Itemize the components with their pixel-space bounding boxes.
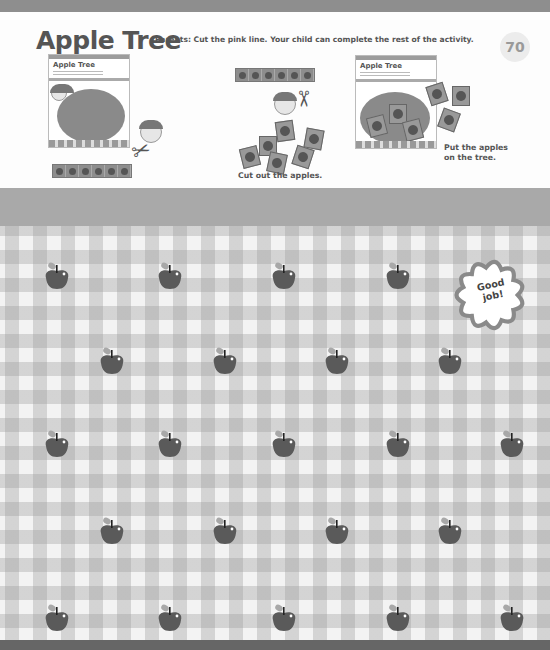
parent-instructions: Parents: Cut the pink line. Your child c… <box>155 35 474 44</box>
apple-cutout-strip <box>235 68 315 82</box>
apple-sticker[interactable] <box>498 603 526 633</box>
apple-icon <box>384 603 412 633</box>
apple-sticker[interactable] <box>270 603 298 633</box>
apple-sticker[interactable] <box>43 603 71 633</box>
apple-sticker[interactable] <box>98 516 126 546</box>
child-face-icon <box>51 85 67 101</box>
step3-caption: Put the apples on the tree. <box>444 143 508 162</box>
step3-caption-line1: Put the apples <box>444 143 508 153</box>
apple-icon <box>43 429 71 459</box>
apple-sticker[interactable] <box>156 603 184 633</box>
tree-icon <box>57 89 125 143</box>
step1-thumb-title: Apple Tree <box>49 59 129 69</box>
apple-sticker[interactable] <box>384 603 412 633</box>
apple-icon <box>323 516 351 546</box>
activity-header: Apple Tree Parents: Cut the pink line. Y… <box>0 12 550 188</box>
top-edge-strip <box>0 0 550 12</box>
apple-icon <box>211 516 239 546</box>
apple-icon <box>498 429 526 459</box>
apple-sticker[interactable] <box>270 261 298 291</box>
apple-sticker[interactable] <box>98 346 126 376</box>
apple-icon <box>384 261 412 291</box>
apple-icon <box>156 261 184 291</box>
apple-sticker[interactable] <box>270 429 298 459</box>
step3-thumbnail: Apple Tree <box>355 55 437 149</box>
step3-caption-line2: on the tree. <box>444 153 508 163</box>
apple-sticker[interactable] <box>384 261 412 291</box>
apple-icon <box>323 346 351 376</box>
apple-icon <box>211 346 239 376</box>
step3-thumb-title: Apple Tree <box>356 60 436 70</box>
gray-divider-band <box>0 188 550 226</box>
apple-icon <box>384 429 412 459</box>
apple-sticker[interactable] <box>436 346 464 376</box>
apple-icon <box>270 429 298 459</box>
apple-icon <box>270 261 298 291</box>
apple-sticker[interactable] <box>498 429 526 459</box>
apple-sticker[interactable] <box>211 346 239 376</box>
apple-sticker[interactable] <box>436 516 464 546</box>
apple-icon <box>156 429 184 459</box>
apple-icon <box>98 516 126 546</box>
apple-card <box>452 86 470 106</box>
apple-icon <box>436 346 464 376</box>
apple-icon <box>156 603 184 633</box>
apple-card <box>437 108 461 133</box>
apple-sticker[interactable] <box>43 429 71 459</box>
apple-card <box>291 145 314 170</box>
apple-icon <box>436 516 464 546</box>
page-number: 70 <box>500 32 530 62</box>
apple-cutout-strip <box>52 164 132 178</box>
apple-sticker[interactable] <box>156 429 184 459</box>
apple-icon <box>43 603 71 633</box>
apple-icon <box>98 346 126 376</box>
scissors-icon: ✂ <box>292 90 314 108</box>
step1-thumbnail: Apple Tree <box>48 54 130 148</box>
apple-sticker[interactable] <box>43 261 71 291</box>
step2-caption: Cut out the apples. <box>238 171 322 181</box>
apple-sticker[interactable] <box>211 516 239 546</box>
apple-sticker[interactable] <box>323 516 351 546</box>
apple-icon <box>270 603 298 633</box>
apple-card <box>275 120 296 142</box>
apple-sticker[interactable] <box>156 261 184 291</box>
apple-icon <box>498 603 526 633</box>
bottom-edge-strip <box>0 640 550 650</box>
apple-sticker[interactable] <box>384 429 412 459</box>
apple-icon <box>43 261 71 291</box>
apple-sticker[interactable] <box>323 346 351 376</box>
apple-card <box>239 145 261 169</box>
